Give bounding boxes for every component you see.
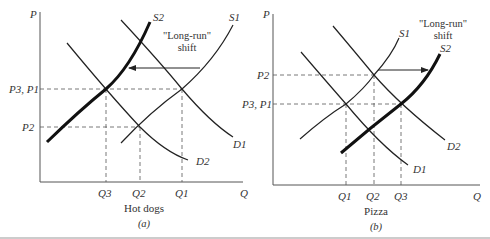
demand-curve-d2 — [333, 26, 445, 140]
curve-label-d2: D2 — [195, 155, 210, 167]
y-axis-label: P — [262, 8, 270, 20]
supply-curve-s2 — [47, 22, 150, 142]
price-label-p2: P2 — [256, 69, 270, 81]
supply-curve-s2 — [341, 54, 440, 153]
quantity-label-q2: Q2 — [132, 187, 146, 199]
caption-a: (a) — [138, 218, 151, 230]
price-label-p3-p1: P3, P1 — [241, 98, 272, 110]
panel-b: P Q P2 P3, P1 Q1 Q2 Q3 S1 S2 D1 D2 "Long… — [241, 8, 481, 233]
price-label-p2: P2 — [21, 121, 35, 133]
guide-lines — [273, 75, 401, 185]
annotation-shift: shift — [434, 30, 453, 41]
quantity-label-q1: Q1 — [175, 187, 188, 199]
annotation-long-run: "Long-run" — [163, 30, 211, 41]
annotation-long-run: "Long-run" — [419, 18, 467, 29]
good-label-hot-dogs: Hot dogs — [124, 202, 164, 214]
x-axis-label: Q — [473, 190, 481, 202]
supply-curve-s1 — [300, 38, 399, 139]
good-label-pizza: Pizza — [364, 205, 388, 217]
quantity-label-q3: Q3 — [98, 187, 112, 199]
y-axis-label: P — [29, 8, 37, 20]
guide-lines — [40, 89, 182, 182]
caption-b: (b) — [370, 221, 383, 233]
curve-label-s2: S2 — [153, 11, 165, 23]
panel-a: P Q P3, P1 P2 Q3 Q2 Q1 S2 S1 D1 D2 "Long… — [8, 8, 248, 230]
curve-label-s2: S2 — [440, 42, 452, 54]
demand-curve-d1 — [301, 52, 408, 165]
curve-label-d2: D2 — [446, 140, 461, 152]
curve-label-s1: S1 — [229, 11, 240, 23]
supply-demand-diagram: P Q P3, P1 P2 Q3 Q2 Q1 S2 S1 D1 D2 "Long… — [0, 0, 490, 239]
demand-curve-d2 — [67, 43, 188, 160]
x-axis-label: Q — [240, 187, 248, 199]
quantity-label-q1: Q1 — [338, 190, 351, 202]
quantity-label-q2: Q2 — [366, 190, 380, 202]
annotation-shift: shift — [178, 42, 197, 53]
curve-label-d1: D1 — [412, 163, 426, 175]
price-label-p3-p1: P3, P1 — [8, 83, 39, 95]
quantity-label-q3: Q3 — [394, 190, 408, 202]
curve-label-d1: D1 — [232, 138, 246, 150]
curve-label-s1: S1 — [399, 27, 410, 39]
